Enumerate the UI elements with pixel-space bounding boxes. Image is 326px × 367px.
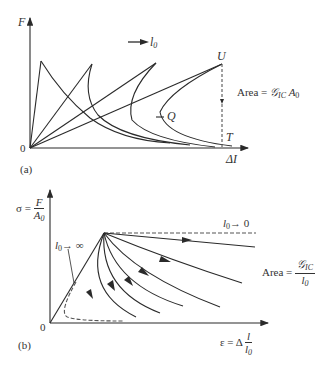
- point-t-label: T: [226, 131, 233, 143]
- epsilon-prefix: ε = Δ: [220, 336, 245, 348]
- panel-a-area-label: Area = 𝒢IC A0: [237, 87, 299, 100]
- epsilon-frac-num: l: [245, 330, 252, 343]
- flow-arrow-1: [182, 237, 192, 243]
- l0-direction-arrowhead: [140, 39, 149, 45]
- flow-arrow-6: [86, 289, 93, 299]
- area-text-b: Area =: [262, 266, 295, 278]
- panel-b-y-axis-label: σ = FA0: [16, 196, 44, 224]
- panel-a-x-axis-label: ΔI: [226, 153, 237, 165]
- panel-b-area-label: Area = 𝒢ICl0: [262, 258, 315, 289]
- unloading-curve-1: [41, 61, 170, 143]
- point-q-label: Q: [167, 110, 176, 122]
- panel-b-x-axis-label: ε = Δ ll0: [220, 330, 252, 358]
- flow-arrow-4: [124, 276, 133, 286]
- area-text: Area =: [237, 86, 270, 98]
- panel-b-origin-label: 0: [40, 322, 46, 333]
- area-suffix: A: [286, 86, 295, 98]
- u-t-arrowhead: [220, 99, 224, 104]
- limit-infinity-suffix: → ∞: [62, 239, 84, 251]
- unloading-curve-2: [104, 233, 242, 283]
- area-frac-den-sub: 0: [305, 279, 309, 288]
- unloading-curve-2: [88, 64, 190, 145]
- limit-zero-label: l0→ 0: [223, 218, 249, 231]
- panel-a: [30, 18, 248, 148]
- area-symbol-sub: IC: [278, 91, 286, 100]
- sigma-prefix: σ =: [16, 202, 34, 214]
- panel-a-y-axis-label: F: [18, 16, 25, 28]
- limit-infinity-dashed: [64, 282, 124, 321]
- limit-infinity-label: l0→ ∞: [55, 240, 84, 253]
- unloading-curve-1: [104, 233, 255, 247]
- unloading-curve-4: [160, 64, 232, 146]
- area-suffix-sub: 0: [295, 91, 299, 100]
- diagram-canvas: [0, 0, 326, 367]
- limit-zero-suffix: → 0: [230, 217, 249, 229]
- unloading-curve-3: [131, 63, 215, 147]
- l0-direction-label: l0: [150, 36, 157, 50]
- panel-b: [50, 190, 268, 323]
- area-symbol: 𝒢: [270, 86, 278, 98]
- area-frac-num: 𝒢: [297, 258, 305, 270]
- unloading-curve-5: [104, 233, 160, 313]
- panel-a-label: (a): [20, 164, 32, 175]
- l0-direction-label-sub: 0: [153, 41, 157, 50]
- epsilon-frac-den-sub: 0: [248, 348, 252, 357]
- panel-a-origin-label: 0: [20, 143, 26, 154]
- flow-arrow-5: [107, 280, 115, 291]
- sigma-frac-num: F: [34, 196, 45, 209]
- sigma-frac-den-sub: 0: [40, 214, 44, 223]
- area-frac-num-sub: IC: [305, 263, 313, 272]
- limit-infinity-pointer: [68, 249, 74, 283]
- panel-b-label: (b): [18, 340, 31, 351]
- point-u-label: U: [217, 50, 226, 62]
